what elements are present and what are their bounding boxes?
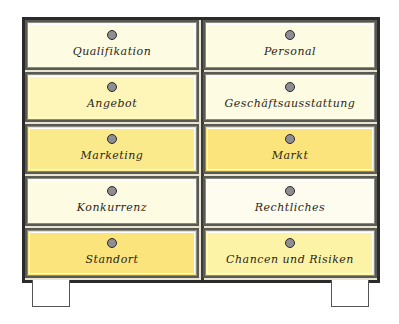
- drawer-label: Personal: [206, 45, 374, 58]
- drawer-knob-icon: [107, 186, 117, 196]
- drawer-rechtliches: Rechtliches: [205, 178, 375, 224]
- drawer-label: Rechtliches: [206, 201, 374, 214]
- drawer-personal: Personal: [205, 22, 375, 68]
- drawer-knob-icon: [107, 238, 117, 248]
- cabinet-leg-right: [331, 280, 369, 307]
- drawer-knob-icon: [107, 134, 117, 144]
- drawer-knob-icon: [107, 30, 117, 40]
- drawer-standort: Standort: [27, 230, 197, 276]
- drawer-label: Geschäftsausstattung: [206, 97, 374, 110]
- drawer-label: Angebot: [28, 97, 196, 110]
- drawer-label: Markt: [206, 149, 374, 162]
- center-divider: [201, 20, 204, 280]
- drawer-angebot: Angebot: [27, 74, 197, 120]
- drawer-markt: Markt: [205, 126, 375, 172]
- drawer-label: Standort: [28, 253, 196, 266]
- drawer-knob-icon: [285, 82, 295, 92]
- drawer-knob-icon: [285, 30, 295, 40]
- drawer-label: Qualifikation: [28, 45, 196, 58]
- drawer-label: Marketing: [28, 149, 196, 162]
- drawer-label: Konkurrenz: [28, 201, 196, 214]
- drawer-chancen-und-risiken: Chancen und Risiken: [205, 230, 375, 276]
- cabinet-leg-left: [32, 280, 70, 307]
- drawer-knob-icon: [285, 238, 295, 248]
- drawer-marketing: Marketing: [27, 126, 197, 172]
- drawer-knob-icon: [285, 186, 295, 196]
- drawer-geschäftsausstattung: Geschäftsausstattung: [205, 74, 375, 120]
- drawer-knob-icon: [285, 134, 295, 144]
- drawer-label: Chancen und Risiken: [206, 253, 374, 266]
- drawer-knob-icon: [107, 82, 117, 92]
- drawer-qualifikation: Qualifikation: [27, 22, 197, 68]
- drawer-konkurrenz: Konkurrenz: [27, 178, 197, 224]
